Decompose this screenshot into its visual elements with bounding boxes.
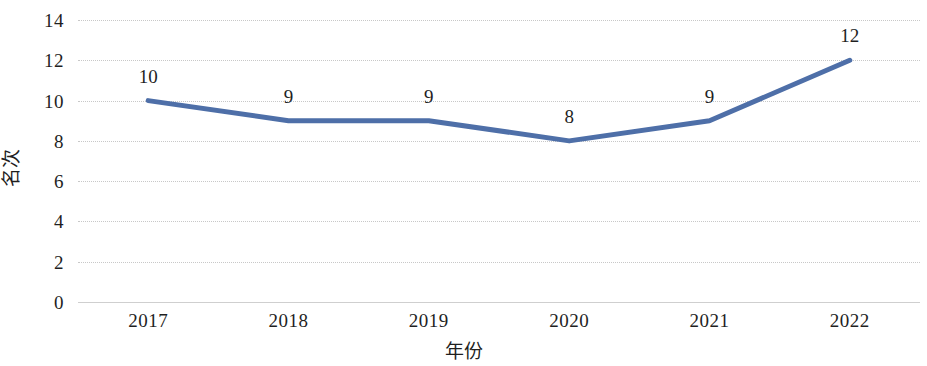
y-tick-label: 10 — [4, 92, 64, 111]
data-label: 8 — [524, 107, 614, 126]
y-tick-label: 12 — [4, 51, 64, 70]
x-tick-label: 2021 — [650, 310, 770, 332]
y-tick-label: 4 — [4, 212, 64, 231]
y-tick-label: 8 — [4, 132, 64, 151]
gridline-0 — [78, 302, 920, 303]
x-axis-title: 年份 — [0, 341, 927, 363]
x-tick-label: 2017 — [88, 310, 208, 332]
data-label: 9 — [665, 87, 755, 106]
plot-area: 10998912 — [78, 20, 920, 302]
x-tick-label: 2018 — [229, 310, 349, 332]
y-axis: 02468101214 — [0, 0, 64, 366]
y-tick-label: 0 — [4, 293, 64, 312]
line-chart: 名次 02468101214 10998912 2017201820192020… — [0, 0, 927, 366]
x-tick-label: 2019 — [369, 310, 489, 332]
x-tick-label: 2022 — [790, 310, 910, 332]
y-tick-label: 6 — [4, 172, 64, 191]
y-tick-label: 2 — [4, 253, 64, 272]
data-label: 10 — [103, 67, 193, 86]
data-label: 12 — [805, 26, 895, 45]
x-tick-label: 2020 — [509, 310, 629, 332]
y-tick-label: 14 — [4, 11, 64, 30]
data-label: 9 — [244, 87, 334, 106]
series-line-ming-ci — [78, 20, 920, 302]
x-axis: 201720182019202020212022 — [78, 310, 920, 338]
data-label: 9 — [384, 87, 474, 106]
